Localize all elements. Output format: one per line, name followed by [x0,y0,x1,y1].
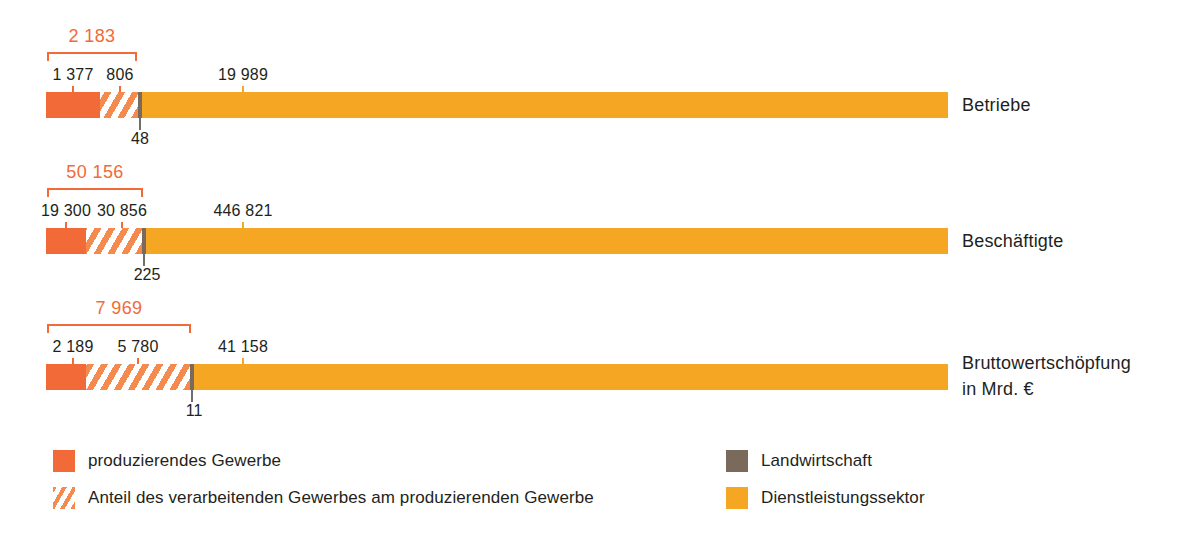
bracket-total-label: 2 183 [68,26,115,47]
value-label-landwirtschaft: 48 [131,130,149,148]
value-label-dienstleistung: 446 821 [213,202,272,220]
value-label-landwirtschaft: 225 [134,266,161,284]
legend-item-dienstleistungssektor[interactable]: Dienstleistungssektor [726,487,925,509]
legend-item-verarbeitendes-gewerbe[interactable]: Anteil des verarbeitenden Gewerbes am pr… [53,487,594,509]
legend-item-produzierendes-gewerbe[interactable]: produzierendes Gewerbe [53,450,281,472]
category-label-betriebe: Betriebe [962,92,1031,118]
bar-track-betriebe [46,92,948,118]
segment-dienstleistungssektor [142,92,948,118]
legend-label: Dienstleistungssektor [761,488,925,508]
value-label-dienstleistung: 19 989 [218,66,268,84]
legend-label: Anteil des verarbeitenden Gewerbes am pr… [88,488,594,508]
segment-verarbeitendes-gewerbe [86,364,190,390]
legend-swatch-icon [53,487,75,509]
segment-verarbeitendes-gewerbe [100,92,138,118]
bar-track-beschaeftigte [46,228,948,254]
bracket-produzierendes-gewerbe [47,324,191,333]
bar-track-bruttowertschoepfung [46,364,948,390]
segment-dienstleistungssektor [146,228,948,254]
tick-landwirtschaft [191,390,193,402]
value-label-produzierend: 2 189 [52,338,93,356]
legend-label: Landwirtschaft [761,451,872,471]
value-label-landwirtschaft: 11 [186,402,203,420]
value-label-produzierend: 1 377 [52,66,93,84]
tick-landwirtschaft [143,254,145,266]
segment-dienstleistungssektor [194,364,948,390]
segment-produzierendes-gewerbe [46,92,100,118]
value-label-produzierend: 19 300 [41,202,91,220]
bracket-total-label: 7 969 [95,298,142,319]
stacked-bar-chart: 2 183 1 377 806 19 989 48 Betriebe 50 15… [0,0,1179,540]
segment-produzierendes-gewerbe [46,364,86,390]
value-label-verarbeitend: 5 780 [117,338,158,356]
segment-verarbeitendes-gewerbe [86,228,142,254]
bracket-produzierendes-gewerbe [47,188,143,197]
segment-produzierendes-gewerbe [46,228,86,254]
bracket-total-label: 50 156 [66,162,123,183]
legend-label: produzierendes Gewerbe [88,451,281,471]
value-label-verarbeitend: 30 856 [97,202,147,220]
tick-landwirtschaft [139,118,141,130]
legend-swatch-icon [726,487,748,509]
legend-swatch-icon [726,450,748,472]
bracket-produzierendes-gewerbe [47,52,137,61]
legend-item-landwirtschaft[interactable]: Landwirtschaft [726,450,872,472]
category-label-beschaeftigte: Beschäftigte [962,228,1063,254]
category-label-bruttowertschoepfung: Bruttowertschöpfung in Mrd. € [962,350,1131,402]
value-label-dienstleistung: 41 158 [218,338,268,356]
legend-swatch-icon [53,450,75,472]
value-label-verarbeitend: 806 [106,66,133,84]
